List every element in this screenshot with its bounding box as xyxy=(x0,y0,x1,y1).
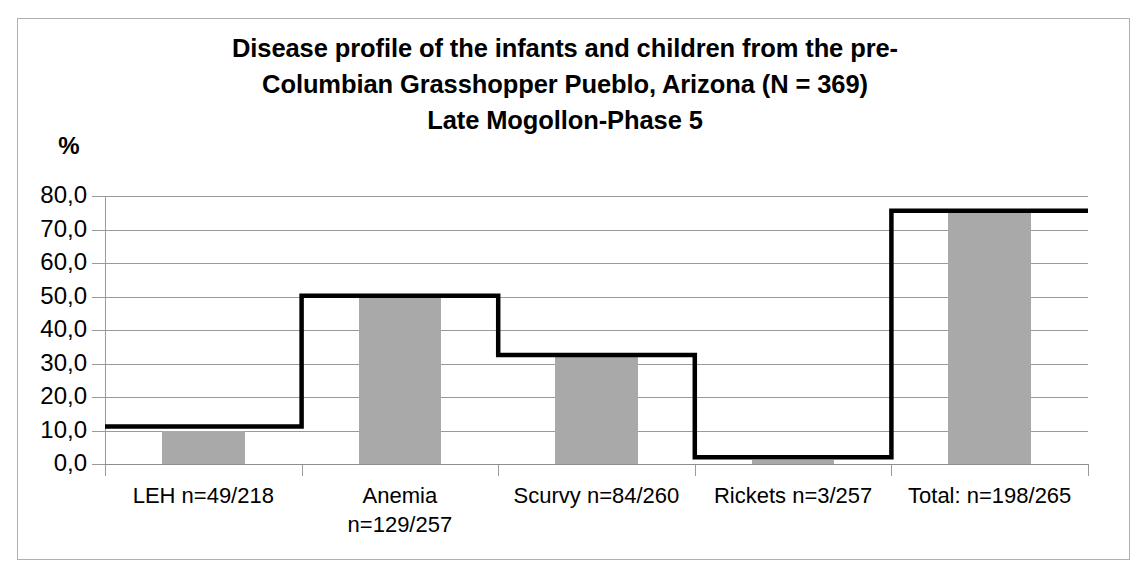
y-axis-label: 40,0 xyxy=(1,317,87,341)
y-axis-label: 0,0 xyxy=(1,451,87,475)
x-axis-tick xyxy=(105,465,106,476)
y-axis-label: 30,0 xyxy=(1,351,87,375)
y-axis-tick xyxy=(92,464,105,465)
y-axis-tick xyxy=(92,196,105,197)
y-axis-tick xyxy=(92,431,105,432)
y-axis-label: 20,0 xyxy=(1,384,87,408)
x-axis-category-label: Total: n=198/265 xyxy=(883,481,1096,510)
y-axis-label: 10,0 xyxy=(1,418,87,442)
x-axis-tick xyxy=(891,465,892,476)
step-line-path xyxy=(105,211,1088,458)
chart-title-line-1: Disease profile of the infants and child… xyxy=(100,30,1030,66)
x-axis-category-label-line: LEH n=49/218 xyxy=(97,481,310,510)
y-axis-tick xyxy=(92,297,105,298)
step-line-svg xyxy=(105,196,1088,470)
y-axis-label: 50,0 xyxy=(1,284,87,308)
y-axis-tick xyxy=(92,263,105,264)
x-axis-category-label: Rickets n=3/257 xyxy=(687,481,900,510)
chart-title-line-3: Late Mogollon-Phase 5 xyxy=(100,102,1030,138)
x-axis-tick xyxy=(695,465,696,476)
x-axis-category-label: LEH n=49/218 xyxy=(97,481,310,510)
x-axis-category-label-line: Total: n=198/265 xyxy=(883,481,1096,510)
y-axis-label: 70,0 xyxy=(1,217,87,241)
y-axis-tick xyxy=(92,230,105,231)
y-axis-tick xyxy=(92,397,105,398)
y-axis-tick xyxy=(92,330,105,331)
x-axis-tick xyxy=(1088,465,1089,476)
x-axis-category-label-line: n=129/257 xyxy=(294,510,507,539)
chart-title-line-2: Columbian Grasshopper Pueblo, Arizona (N… xyxy=(100,66,1030,102)
y-axis-label: 60,0 xyxy=(1,250,87,274)
x-axis-category-label-line: Rickets n=3/257 xyxy=(687,481,900,510)
chart-title: Disease profile of the infants and child… xyxy=(100,30,1030,138)
x-axis-category-label-line: Anemia xyxy=(294,481,507,510)
y-axis-label: 80,0 xyxy=(1,183,87,207)
x-axis-category-label-line: Scurvy n=84/260 xyxy=(490,481,703,510)
x-axis-tick xyxy=(302,465,303,476)
y-axis-unit-label: % xyxy=(40,132,98,160)
x-axis-tick xyxy=(498,465,499,476)
y-axis-tick xyxy=(92,364,105,365)
x-axis-category-label: Scurvy n=84/260 xyxy=(490,481,703,510)
step-line-overlay xyxy=(105,196,1088,464)
x-axis-category-label: Anemian=129/257 xyxy=(294,481,507,539)
